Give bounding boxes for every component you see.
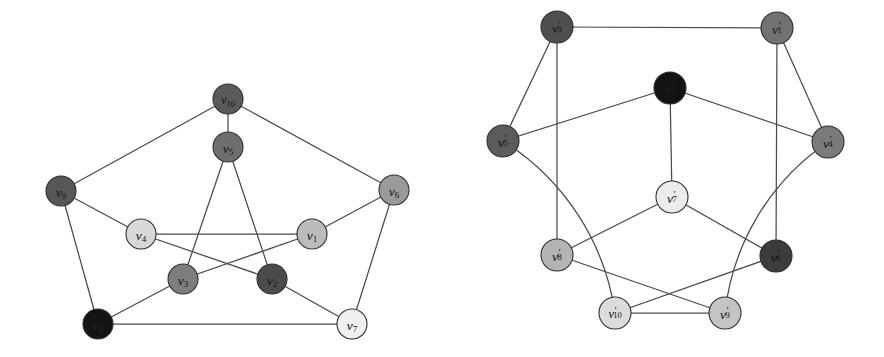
graph-edge <box>557 27 777 28</box>
graph-node-v7p[interactable]: v′7 <box>656 181 688 213</box>
graph-node-v7[interactable]: v7 <box>337 309 367 339</box>
graph-node-v10[interactable]: v10 <box>213 84 243 114</box>
graph-edge <box>776 28 777 256</box>
graph-node-circle[interactable] <box>213 132 243 162</box>
graph-edge <box>672 197 776 256</box>
graph-node-v9[interactable]: v9 <box>46 176 76 206</box>
graph-edge <box>61 99 228 191</box>
graph-edge <box>503 88 670 141</box>
graph-edge <box>183 234 312 279</box>
graph-node-circle[interactable] <box>541 11 573 43</box>
graph-edge <box>557 197 672 255</box>
graph-node-v8p[interactable]: v′8 <box>541 239 573 271</box>
graph-node-circle[interactable] <box>337 309 367 339</box>
graph-edge <box>228 99 394 190</box>
graph-node-circle[interactable] <box>487 125 519 157</box>
graph-node-circle[interactable] <box>46 176 76 206</box>
graph-figure-canvas: v10v5v9v6v4v1v3v2v8v7v′3v′1v′2v′5v′4v′7v… <box>0 0 884 357</box>
graph-node-v3p[interactable]: v′3 <box>541 11 573 43</box>
graph-g: v10v5v9v6v4v1v3v2v8v7 <box>46 84 409 339</box>
graph-edge <box>615 256 776 313</box>
graph-node-circle[interactable] <box>379 175 409 205</box>
graph-edge <box>777 28 828 142</box>
graph-node-circle[interactable] <box>656 181 688 213</box>
graph-node-v5[interactable]: v5 <box>213 132 243 162</box>
graph-node-circle[interactable] <box>541 239 573 271</box>
graph-node-circle[interactable] <box>812 126 844 158</box>
graph-node-circle[interactable] <box>168 264 198 294</box>
graph-node-v6p[interactable]: v′6 <box>760 240 792 272</box>
graph-node-circle[interactable] <box>126 219 156 249</box>
graph-node-v4p[interactable]: v′4 <box>812 126 844 158</box>
graph-node-v9p[interactable]: v′9 <box>709 297 741 329</box>
graph-edge <box>503 141 615 313</box>
graph-node-v3[interactable]: v3 <box>168 264 198 294</box>
graph-node-v4[interactable]: v4 <box>126 219 156 249</box>
graph-edge <box>670 88 828 142</box>
graph-node-v2p[interactable]: v′2 <box>654 72 686 104</box>
graph-g-prime: v′3v′1v′2v′5v′4v′7v′8v′6v′10v′9 <box>487 11 844 329</box>
graph-node-v1[interactable]: v1 <box>297 219 327 249</box>
graph-node-v1p[interactable]: v′1 <box>761 12 793 44</box>
graph-edge <box>183 147 228 279</box>
graph-node-circle[interactable] <box>709 297 741 329</box>
graph-node-circle[interactable] <box>599 297 631 329</box>
graph-node-circle[interactable] <box>760 240 792 272</box>
graph-node-circle[interactable] <box>213 84 243 114</box>
graph-node-v2[interactable]: v2 <box>257 264 287 294</box>
graph-node-circle[interactable] <box>83 309 113 339</box>
graph-node-circle[interactable] <box>654 72 686 104</box>
graph-panels-layer: v10v5v9v6v4v1v3v2v8v7v′3v′1v′2v′5v′4v′7v… <box>46 11 844 339</box>
graph-node-circle[interactable] <box>297 219 327 249</box>
graph-node-circle[interactable] <box>257 264 287 294</box>
graph-node-v10p[interactable]: v′10 <box>599 297 631 329</box>
graph-edge <box>503 27 557 141</box>
graph-edge <box>352 190 394 324</box>
graph-node-v6[interactable]: v6 <box>379 175 409 205</box>
graph-edge <box>61 191 98 324</box>
graph-edge <box>228 147 272 279</box>
graph-node-v5p[interactable]: v′5 <box>487 125 519 157</box>
graph-node-v8[interactable]: v8 <box>83 309 113 339</box>
graph-node-circle[interactable] <box>761 12 793 44</box>
graph-edge <box>141 234 272 279</box>
figure-root: v10v5v9v6v4v1v3v2v8v7v′3v′1v′2v′5v′4v′7v… <box>0 0 884 357</box>
